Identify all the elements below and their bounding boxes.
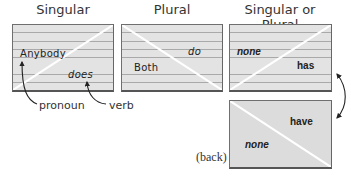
label-back: (back) (196, 150, 227, 165)
label-pronoun: pronoun (39, 99, 85, 112)
card-either-back: have none (229, 100, 332, 169)
card-singular-verb: does (68, 69, 93, 80)
card-singular: Anybody does (12, 24, 114, 92)
card-plural-subject: Both (134, 62, 158, 73)
label-verb: verb (109, 99, 134, 112)
diagonal-divider (230, 101, 331, 167)
card-plural: do Both (121, 24, 223, 92)
card-either-front: none has (229, 24, 332, 92)
diagonal-divider (230, 25, 331, 90)
flip-arrow-icon (337, 74, 345, 118)
card-plural-verb: do (188, 46, 201, 57)
card-either-back-verb: have (290, 116, 313, 127)
heading-singular: Singular (12, 2, 114, 17)
card-either-back-subject: none (245, 139, 269, 150)
card-either-front-subject: none (237, 46, 261, 57)
heading-plural: Plural (121, 2, 223, 17)
card-singular-subject: Anybody (20, 48, 66, 59)
card-either-front-verb: has (297, 60, 314, 71)
diagonal-divider (122, 25, 222, 90)
